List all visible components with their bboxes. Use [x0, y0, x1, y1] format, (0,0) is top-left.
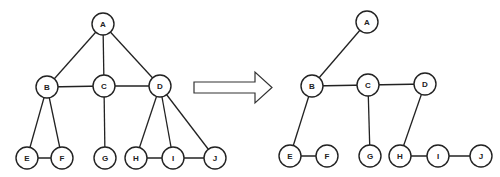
right-node-g: G — [359, 145, 381, 167]
node-label: D — [422, 80, 428, 89]
left-node-b: B — [36, 76, 58, 98]
left-edge-a-d — [103, 24, 160, 86]
right-graph-nodes: ABCDEFGHIJ — [279, 11, 492, 167]
left-node-h: H — [125, 147, 147, 169]
node-label: J — [213, 154, 217, 163]
right-node-a: A — [356, 11, 378, 33]
node-label: I — [437, 152, 439, 161]
node-label: D — [157, 82, 163, 91]
right-edge-a-b — [312, 22, 367, 86]
node-label: C — [101, 82, 107, 91]
left-node-j: J — [204, 147, 226, 169]
right-node-c: C — [357, 74, 379, 96]
node-label: H — [397, 152, 403, 161]
node-label: B — [44, 83, 50, 92]
left-node-e: E — [16, 147, 38, 169]
node-label: G — [367, 152, 373, 161]
node-label: H — [133, 154, 139, 163]
node-label: E — [24, 154, 30, 163]
left-node-d: D — [149, 75, 171, 97]
left-node-a: A — [92, 13, 114, 35]
node-label: C — [365, 81, 371, 90]
left-node-g: G — [94, 147, 116, 169]
right-node-f: F — [316, 145, 338, 167]
left-node-f: F — [51, 147, 73, 169]
left-node-c: C — [93, 75, 115, 97]
left-node-i: I — [162, 147, 184, 169]
node-label: B — [309, 82, 315, 91]
left-edge-a-b — [47, 24, 103, 87]
left-edge-d-j — [160, 86, 215, 158]
node-label: F — [60, 154, 65, 163]
right-node-i: I — [427, 145, 449, 167]
node-label: J — [479, 152, 483, 161]
node-label: G — [102, 154, 108, 163]
node-label: A — [364, 18, 370, 27]
node-label: A — [100, 20, 106, 29]
right-node-e: E — [279, 145, 301, 167]
right-node-j: J — [470, 145, 492, 167]
node-label: E — [287, 152, 293, 161]
right-node-b: B — [301, 75, 323, 97]
right-node-d: D — [414, 73, 436, 95]
graph-diagram: ABCDEFGHIJ ABCDEFGHIJ — [0, 0, 500, 177]
node-label: F — [325, 152, 330, 161]
right-node-h: H — [389, 145, 411, 167]
node-label: I — [172, 154, 174, 163]
right-arrow-icon — [194, 72, 272, 103]
